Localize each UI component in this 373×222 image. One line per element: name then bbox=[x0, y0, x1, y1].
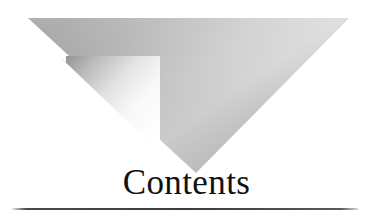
title-divider-rule bbox=[12, 208, 358, 210]
page-title: Contents bbox=[0, 163, 373, 203]
ornament-outer-triangle bbox=[28, 18, 349, 173]
contents-page: Contents bbox=[0, 0, 373, 222]
ornament-inner-wedge bbox=[59, 56, 160, 152]
